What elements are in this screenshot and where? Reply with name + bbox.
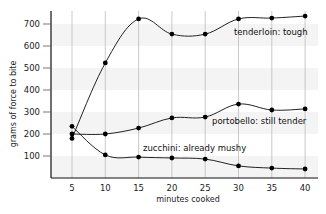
line-chart: 100200300400500600700 510152025303540 te… (0, 0, 326, 214)
x-tick-label: 15 (133, 183, 144, 193)
data-point (303, 14, 308, 19)
data-point (170, 156, 175, 161)
x-tick-label: 25 (200, 183, 211, 193)
x-tick-label: 20 (166, 183, 177, 193)
x-axis-ticks: 510152025303540 (69, 183, 310, 193)
y-tick-label: 100 (24, 151, 40, 161)
data-point (269, 16, 274, 21)
data-point (236, 17, 241, 22)
y-tick-label: 600 (24, 41, 40, 51)
y-tick-label: 500 (24, 63, 40, 73)
x-axis-title: minutes cooked (156, 195, 219, 204)
data-point (203, 157, 208, 162)
y-tick-label: 200 (24, 129, 40, 139)
data-point (236, 102, 241, 107)
data-point (303, 167, 308, 172)
data-point (269, 108, 274, 113)
y-tick-label: 400 (24, 85, 40, 95)
data-point (203, 32, 208, 37)
background-band (51, 156, 318, 178)
data-point (236, 164, 241, 169)
series-label-zucchini: zucchini: already mushy (143, 143, 246, 153)
y-tick-label: 700 (24, 19, 40, 29)
x-tick-label: 5 (69, 183, 74, 193)
background-band (51, 68, 318, 90)
data-point (103, 153, 108, 158)
y-tick-label: 300 (24, 107, 40, 117)
data-point (170, 32, 175, 37)
data-point (70, 132, 75, 137)
data-point (136, 155, 141, 160)
data-point (70, 124, 75, 129)
y-axis-title: grams of force to bite (9, 61, 18, 148)
data-point (269, 166, 274, 171)
x-tick-label: 10 (100, 183, 111, 193)
x-tick-label: 30 (233, 183, 244, 193)
data-point (70, 136, 75, 141)
data-point (203, 115, 208, 120)
x-tick-label: 35 (266, 183, 277, 193)
data-point (103, 61, 108, 66)
data-point (103, 132, 108, 137)
series-label-tenderloin: tenderloin: tough (234, 27, 308, 37)
y-axis-ticks: 100200300400500600700 (24, 19, 51, 161)
x-tick-label: 40 (300, 183, 311, 193)
background-bands (51, 24, 318, 178)
series-label-portobello: portobello: still tender (212, 116, 307, 126)
data-point (303, 107, 308, 112)
data-point (170, 116, 175, 121)
data-point (136, 17, 141, 22)
data-point (136, 126, 141, 131)
